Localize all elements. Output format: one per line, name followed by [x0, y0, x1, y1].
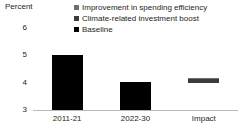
x-axis-line — [33, 110, 238, 111]
bar-chart: Percent Improvement in spending efficien… — [0, 0, 244, 131]
legend-item-label: Improvement in spending efficiency — [82, 3, 207, 12]
legend-swatch-icon — [74, 16, 79, 21]
y-axis-tick-label: 4 — [5, 78, 27, 87]
bar-segment — [188, 79, 219, 83]
bar-2022-30 — [120, 82, 151, 110]
y-axis-unit-label: Percent — [5, 2, 33, 11]
legend-item-label: Climate-related investment boost — [82, 14, 199, 23]
y-axis-tick-label: 5 — [5, 50, 27, 59]
bar-2011-21 — [52, 55, 83, 110]
x-axis-tick-label: Impact — [170, 114, 238, 124]
legend-swatch-icon — [74, 5, 79, 10]
bar-segment — [188, 78, 219, 79]
bar-impact — [188, 78, 219, 83]
x-axis-tick-label: 2022-30 — [101, 114, 169, 124]
y-axis-tick-label: 6 — [5, 23, 27, 32]
plot-area — [33, 28, 238, 110]
legend-item-climate-related-investment-boost: Climate-related investment boost — [74, 13, 207, 23]
legend-item-improvement-in-spending-efficiency: Improvement in spending efficiency — [74, 2, 207, 12]
bar-segment — [120, 82, 151, 110]
y-axis-tick-label: 3 — [5, 105, 27, 114]
bar-segment — [52, 55, 83, 110]
x-axis-tick-label: 2011-21 — [33, 114, 101, 124]
